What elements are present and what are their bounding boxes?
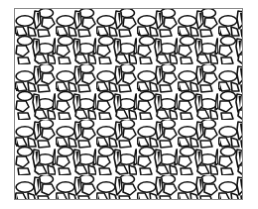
canvas: [0, 0, 258, 209]
mosaic-frame: [14, 8, 243, 200]
mosaic-pattern: [15, 9, 242, 199]
